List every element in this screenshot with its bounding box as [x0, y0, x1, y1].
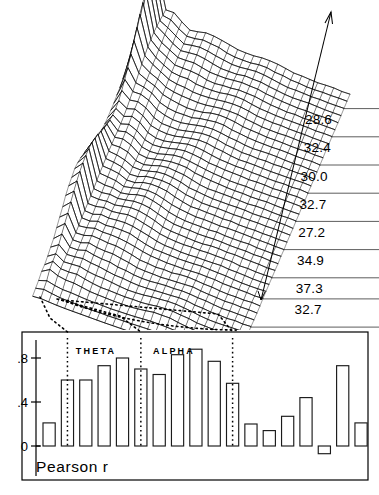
trace-value-label: 28.6	[305, 112, 332, 127]
bar	[153, 375, 165, 447]
bar	[282, 416, 294, 446]
bar	[263, 431, 275, 446]
bar	[116, 358, 128, 446]
bar	[318, 446, 330, 454]
band-label: ALPHA	[153, 346, 195, 356]
trace-value-label: 37.3	[296, 281, 323, 296]
bar	[227, 383, 239, 446]
bar	[337, 366, 349, 446]
bar	[208, 361, 220, 446]
trace-value-label: 32.7	[299, 197, 326, 212]
y-tick-label: .8	[17, 351, 28, 366]
trace-value-label: 30.0	[301, 169, 328, 184]
bar	[80, 380, 92, 446]
trace-value-label: 32.4	[304, 140, 331, 155]
y-tick-label: 0	[21, 439, 28, 454]
figure-root: 28.632.430.032.727.234.937.332.728.827.2…	[0, 0, 379, 495]
bar	[190, 349, 202, 446]
bar	[98, 366, 110, 446]
pearson-bar-chart-panel: 0.4.8THETAALPHAPearson r	[0, 320, 379, 495]
bar	[300, 398, 312, 446]
trace-value-label: 27.2	[298, 225, 325, 240]
chart-title: Pearson r	[36, 458, 109, 475]
trace-value-label: 34.9	[297, 253, 324, 268]
y-tick-label: .4	[17, 395, 28, 410]
bar	[171, 355, 183, 446]
bar	[355, 423, 367, 446]
trace-value-label: 32.7	[295, 302, 322, 317]
bar	[43, 423, 55, 446]
bar	[245, 424, 257, 446]
band-label: THETA	[76, 346, 116, 356]
waterfall-panel: 28.632.430.032.727.234.937.332.728.827.2	[0, 0, 379, 330]
